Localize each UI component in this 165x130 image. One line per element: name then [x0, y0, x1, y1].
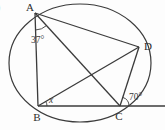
point-label-d: D: [144, 40, 152, 52]
angle-arc-a: [36, 26, 47, 30]
geometry-figure: A B C D 37° x 70° ): [0, 0, 165, 130]
point-label-a: A: [26, 1, 34, 13]
chord-ab: [35, 13, 38, 106]
angle-label-70: 70°: [129, 92, 143, 102]
geometry-diagram-svg: A B C D 37° x 70° ): [0, 0, 165, 130]
angle-label-x: x: [48, 95, 54, 105]
point-label-b: B: [33, 111, 40, 123]
angle-label-37: 37°: [31, 35, 45, 45]
point-label-c: C: [115, 110, 122, 122]
